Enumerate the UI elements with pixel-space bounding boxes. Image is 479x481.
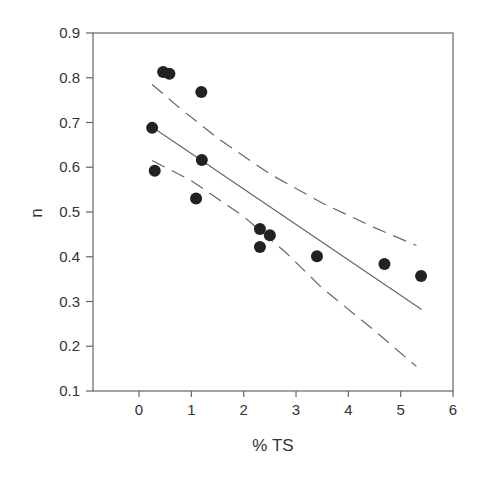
y-tick-label: 0.2 xyxy=(59,337,80,354)
fit-lines xyxy=(152,84,421,366)
y-tick-label: 0.7 xyxy=(59,114,80,131)
x-tick-label: 0 xyxy=(135,401,143,418)
data-point xyxy=(196,154,208,166)
y-tick-label: 0.4 xyxy=(59,248,80,265)
y-tick-label: 0.5 xyxy=(59,203,80,220)
lower-confidence-line xyxy=(152,161,416,367)
data-point xyxy=(146,122,158,134)
data-point xyxy=(254,241,266,253)
data-point xyxy=(378,258,390,270)
x-tick-label: 6 xyxy=(449,401,457,418)
data-point xyxy=(254,223,266,235)
x-axis-title: % TS xyxy=(252,436,293,455)
data-point xyxy=(190,193,202,205)
y-axis-title: n xyxy=(27,208,46,217)
plot-area xyxy=(93,33,453,391)
upper-confidence-line xyxy=(152,84,416,245)
data-point xyxy=(264,229,276,241)
scatter-chart: 0.10.20.30.40.50.60.70.80.9 0123456 % TS… xyxy=(0,0,479,481)
x-tick-label: 5 xyxy=(397,401,405,418)
x-tick-label: 2 xyxy=(240,401,248,418)
data-point xyxy=(311,250,323,262)
y-tick-label: 0.8 xyxy=(59,69,80,86)
y-tick-label: 0.9 xyxy=(59,24,80,41)
y-tick-label: 0.1 xyxy=(59,382,80,399)
x-tick-label: 1 xyxy=(187,401,195,418)
x-tick-label: 3 xyxy=(292,401,300,418)
data-point xyxy=(195,86,207,98)
regression-line xyxy=(152,127,421,310)
data-points xyxy=(146,66,427,282)
x-axis: 0123456 xyxy=(135,391,457,418)
y-tick-label: 0.3 xyxy=(59,293,80,310)
y-tick-label: 0.6 xyxy=(59,158,80,175)
x-tick-label: 4 xyxy=(344,401,352,418)
data-point xyxy=(149,165,161,177)
data-point xyxy=(163,68,175,80)
y-axis: 0.10.20.30.40.50.60.70.80.9 xyxy=(59,24,93,399)
data-point xyxy=(415,270,427,282)
